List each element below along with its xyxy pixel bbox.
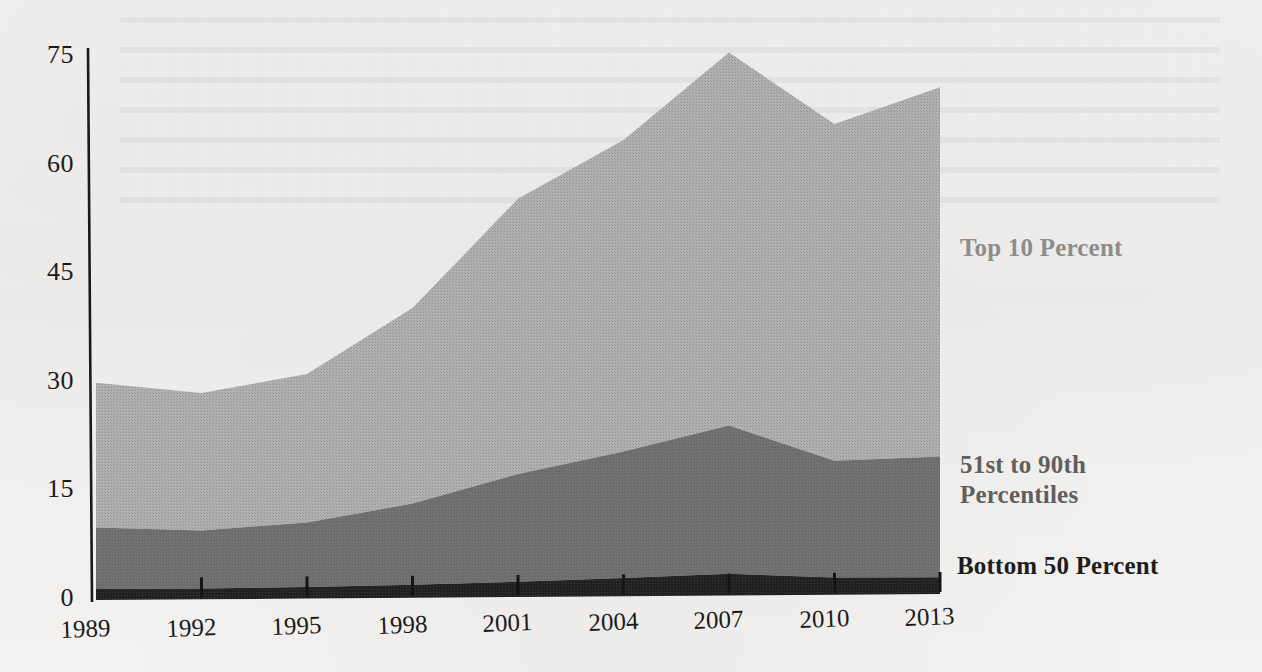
- y-axis-tick-label-30: 30: [18, 366, 74, 396]
- chart-page: 01530456075 1989199219951998200120042007…: [0, 0, 1262, 672]
- series-label-top-10-percent: Top 10 Percent: [960, 233, 1123, 263]
- x-axis-tick-label-1998: 1998: [377, 610, 428, 640]
- x-axis-tick-label-2001: 2001: [482, 608, 533, 638]
- y-axis-tick-label-60: 60: [18, 149, 74, 179]
- x-axis-tick-label-2007: 2007: [693, 605, 744, 635]
- y-axis-line: [88, 48, 92, 602]
- x-axis-tick-label-1995: 1995: [271, 611, 322, 641]
- x-axis-tick-label-1989: 1989: [60, 614, 111, 644]
- y-axis-tick-label-15: 15: [18, 474, 74, 504]
- x-axis-tick-label-2013: 2013: [904, 602, 955, 632]
- series-label-bottom-50-percent: Bottom 50 Percent: [957, 551, 1158, 581]
- stacked-area-chart: 01530456075 1989199219951998200120042007…: [0, 0, 1262, 672]
- x-axis-tick-label-2010: 2010: [799, 604, 850, 634]
- y-axis-tick-label-0: 0: [18, 583, 74, 613]
- y-axis-tick-label-45: 45: [18, 257, 74, 287]
- x-axis-tick-label-2004: 2004: [588, 607, 639, 637]
- series-label-51st-to-90th-percentiles: 51st to 90th Percentiles: [960, 450, 1086, 509]
- y-axis-tick-label-75: 75: [18, 40, 74, 70]
- x-axis-tick-label-1992: 1992: [166, 613, 217, 643]
